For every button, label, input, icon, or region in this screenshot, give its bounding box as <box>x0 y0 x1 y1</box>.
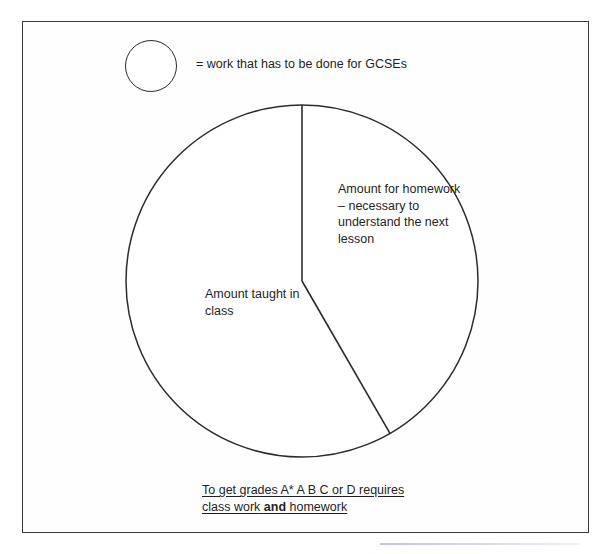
slice-label-homework: Amount for homework – necessary to under… <box>338 181 468 247</box>
caption-block: To get grades A* A B C or D requires cla… <box>202 482 462 516</box>
legend-label: = work that has to be done for GCSEs <box>196 57 407 72</box>
legend-circle-icon <box>125 40 177 92</box>
page-frame <box>22 21 589 533</box>
caption-line-2-prefix: class work <box>202 500 264 514</box>
scan-artifact <box>380 543 580 545</box>
page-canvas: = work that has to be done for GCSEs Amo… <box>0 0 612 554</box>
slice-label-class: Amount taught in class <box>205 286 310 319</box>
caption-line-2: class work and homework <box>202 500 347 514</box>
caption-emphasis-and: and <box>264 500 286 514</box>
caption-line-2-suffix: homework <box>286 500 347 514</box>
caption-line-1: To get grades A* A B C or D requires <box>202 483 404 497</box>
